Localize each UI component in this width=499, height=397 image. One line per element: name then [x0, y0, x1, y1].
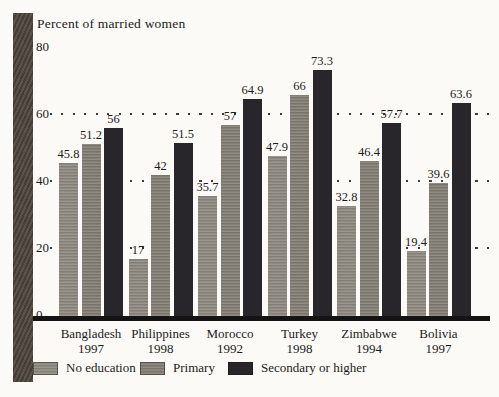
bar-primary-zimbabwe [360, 161, 379, 316]
bar-primary-bolivia [429, 183, 448, 316]
legend-item-no-education: No education [33, 359, 136, 377]
bar-value-label: 32.8 [325, 190, 369, 204]
bar-value-label: 17 [116, 243, 160, 257]
bar-value-label: 51.2 [69, 128, 113, 142]
legend-swatch [228, 362, 253, 375]
bar-primary-morocco [221, 125, 240, 316]
chart-page: Percent of married women 02040608045.851… [0, 0, 499, 397]
legend-item-primary: Primary [140, 359, 215, 377]
legend-label: Secondary or higher [261, 360, 366, 376]
bar-no-education-turkey [268, 156, 287, 316]
bar-value-label: 64.9 [231, 83, 275, 97]
legend-label: No education [66, 360, 136, 376]
legend-swatch [33, 362, 58, 375]
bar-value-label: 45.8 [47, 147, 91, 161]
bar-no-education-bangladesh [59, 163, 78, 316]
bar-value-label: 47.9 [255, 140, 299, 154]
legend-label: Primary [173, 360, 215, 376]
bar-no-education-bolivia [407, 251, 426, 316]
bar-value-label: 51.5 [161, 127, 205, 141]
legend-item-secondary-or-higher: Secondary or higher [228, 359, 366, 377]
category-year-label: 1997 [394, 341, 484, 356]
bar-value-label: 56 [92, 112, 136, 126]
bar-value-label: 19.4 [394, 235, 438, 249]
bar-no-education-zimbabwe [337, 206, 356, 316]
bar-primary-turkey [290, 95, 309, 316]
bar-value-label: 42 [139, 159, 183, 173]
bar-value-label: 57.7 [370, 107, 414, 121]
bar-value-label: 66 [278, 79, 322, 93]
bar-value-label: 57 [208, 109, 252, 123]
bar-value-label: 73.3 [300, 54, 344, 68]
bar-value-label: 35.7 [186, 180, 230, 194]
bar-secondary-or-higher-bolivia [452, 103, 471, 316]
bar-no-education-morocco [198, 196, 217, 316]
bar-value-label: 63.6 [439, 87, 483, 101]
plot-area: 02040608045.851.256Bangladesh1997174251.… [0, 0, 499, 397]
legend-swatch [140, 362, 165, 375]
legend: No educationPrimarySecondary or higher [0, 357, 499, 379]
category-label-bolivia: Bolivia [394, 326, 484, 341]
x-axis-baseline [33, 316, 490, 321]
y-tick-label-80: 80 [36, 39, 62, 55]
bar-value-label: 46.4 [347, 145, 391, 159]
bar-value-label: 39.6 [417, 167, 461, 181]
bar-primary-bangladesh [82, 144, 101, 316]
bar-secondary-or-higher-bangladesh [104, 128, 123, 316]
bar-secondary-or-higher-morocco [243, 99, 262, 316]
bar-no-education-philippines [129, 259, 148, 316]
